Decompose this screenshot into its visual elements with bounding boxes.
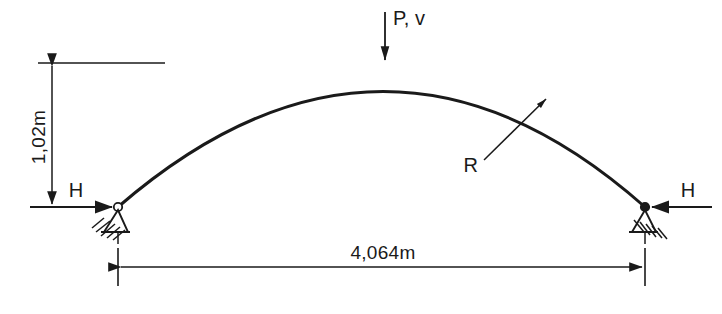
vertical-load-label: P, v <box>393 7 425 29</box>
radius-label: R <box>464 154 478 176</box>
left-support-triangle-icon <box>104 210 128 232</box>
arch-curve <box>118 92 645 208</box>
left-thrust-group: H <box>30 179 112 207</box>
arch-curve-group <box>118 92 645 208</box>
arch-diagram-canvas: 1,02m 4,064m P, v R <box>0 0 722 314</box>
right-thrust-label: H <box>681 179 695 201</box>
right-support-group <box>629 203 667 244</box>
right-thrust-group: H <box>652 179 712 207</box>
left-support-group <box>92 203 130 244</box>
span-dimension-group: 4,064m <box>118 242 645 286</box>
radius-annotation-group: R <box>464 99 546 176</box>
left-thrust-label: H <box>69 179 83 201</box>
arch-diagram: 1,02m 4,064m P, v R <box>0 0 722 314</box>
vertical-load-group: P, v <box>385 7 425 60</box>
span-dimension-label: 4,064m <box>350 242 415 263</box>
rise-dimension-label: 1,02m <box>28 110 49 164</box>
left-support-hatching-icon <box>92 218 125 240</box>
